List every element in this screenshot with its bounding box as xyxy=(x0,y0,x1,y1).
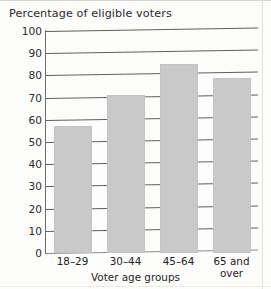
page-border-right xyxy=(262,0,263,289)
plot-area xyxy=(46,31,258,253)
y-axis-tick-labels: 0102030405060708090100 xyxy=(4,31,42,253)
bar xyxy=(54,126,92,253)
y-tick-label: 100 xyxy=(10,25,42,37)
y-tick-label: 50 xyxy=(10,136,42,148)
chart-page: Percentage of eligible voters 0102030405… xyxy=(0,0,271,289)
bar xyxy=(160,64,198,253)
x-tick-label: 30–44 xyxy=(99,256,152,268)
x-axis-title: Voter age groups xyxy=(0,271,271,283)
x-tick-label: 45–64 xyxy=(152,256,205,268)
bar-series xyxy=(46,31,258,253)
y-tick-label: 80 xyxy=(10,69,42,81)
bar xyxy=(213,78,251,253)
y-tick-label: 10 xyxy=(10,225,42,237)
y-tick-label: 90 xyxy=(10,47,42,59)
y-tick-label: 40 xyxy=(10,158,42,170)
page-border-bottom xyxy=(0,286,271,287)
y-tick-label: 0 xyxy=(10,247,42,259)
y-tick-label: 60 xyxy=(10,114,42,126)
chart-title: Percentage of eligible voters xyxy=(9,7,172,20)
page-border-top xyxy=(0,0,271,1)
y-tick-label: 70 xyxy=(10,92,42,104)
y-tick-label: 20 xyxy=(10,203,42,215)
y-tick-label: 30 xyxy=(10,180,42,192)
bar xyxy=(107,95,145,253)
x-tick-label: 18–29 xyxy=(46,256,99,268)
